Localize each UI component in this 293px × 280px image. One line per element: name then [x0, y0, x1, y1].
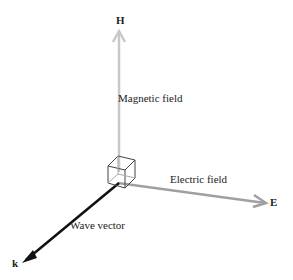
- wave-vector-label: Wave vector: [70, 219, 125, 231]
- wave-vector-symbol: k: [12, 257, 18, 269]
- electric-field-arrow: [118, 183, 266, 207]
- em-wave-diagram: H Magnetic field Electric field E Wave v…: [0, 0, 293, 280]
- electric-field-symbol: E: [270, 196, 277, 208]
- electric-field-label: Electric field: [170, 173, 227, 185]
- magnetic-field-label: Magnetic field: [118, 92, 182, 104]
- diagram-canvas: [0, 0, 293, 280]
- magnetic-field-symbol: H: [116, 14, 125, 26]
